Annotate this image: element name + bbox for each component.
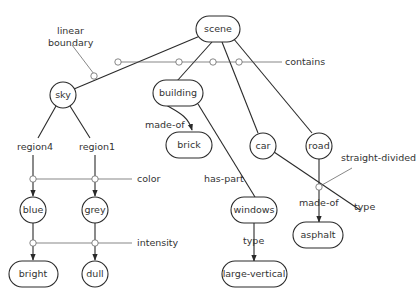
edge-scene-car — [222, 42, 258, 133]
contains-knot-car — [210, 59, 216, 65]
node-large-vertical-label: large-vertical — [223, 268, 286, 279]
region4-label: region4 — [17, 141, 53, 152]
made-of-asphalt-label: made-of — [299, 197, 339, 208]
boundary-label: boundary — [48, 37, 94, 48]
node-bright-label: bright — [19, 268, 48, 279]
node-windows: windows — [231, 197, 277, 223]
intensity-relation: intensity — [30, 237, 179, 248]
node-car: car — [250, 133, 276, 159]
straight-divided-knot — [316, 184, 322, 190]
node-asphalt: asphalt — [293, 222, 343, 248]
node-sky-label: sky — [55, 89, 71, 100]
node-dull-label: dull — [86, 268, 103, 279]
region1-label: region1 — [79, 141, 115, 152]
linear-boundary-relation: linear boundary — [48, 25, 97, 79]
node-blue-label: blue — [23, 204, 44, 215]
node-grey-label: grey — [84, 204, 106, 215]
type-windows-label: type — [243, 235, 264, 246]
node-car-label: car — [256, 140, 271, 151]
node-blue: blue — [20, 197, 46, 223]
semantic-network-diagram: contains linear boundary made-of has-par… — [0, 0, 418, 302]
node-road: road — [306, 133, 332, 159]
node-road-label: road — [308, 140, 329, 151]
node-windows-label: windows — [234, 204, 275, 215]
node-brick-label: brick — [177, 139, 201, 150]
intensity-label: intensity — [137, 237, 179, 248]
node-building-label: building — [159, 87, 197, 98]
node-scene: scene — [196, 16, 240, 42]
node-asphalt-label: asphalt — [300, 229, 335, 240]
intensity-knot-blue — [30, 240, 36, 246]
node-scene-label: scene — [204, 23, 232, 34]
edge-scene-road — [233, 38, 312, 133]
node-brick: brick — [166, 132, 212, 158]
edge-sky-region1 — [70, 106, 90, 138]
contains-knot-sky — [115, 59, 121, 65]
contains-relation: contains — [115, 56, 325, 67]
straight-divided-label: straight-divided — [341, 152, 416, 163]
has-part-label: has-part — [204, 173, 244, 184]
intensity-knot-grey — [92, 240, 98, 246]
node-grey: grey — [82, 197, 108, 223]
node-bright: bright — [9, 261, 58, 287]
color-knot-blue — [30, 176, 36, 182]
linear-boundary-pointer — [72, 45, 94, 74]
edge-sky-region4 — [38, 106, 56, 138]
type-car-label: type — [354, 201, 375, 212]
straight-divided-pointer — [322, 168, 352, 185]
contains-knot-building — [176, 59, 182, 65]
node-dull: dull — [82, 261, 108, 287]
color-label: color — [137, 173, 160, 184]
color-knot-grey — [92, 176, 98, 182]
node-large-vertical: large-vertical — [222, 261, 287, 287]
contains-label: contains — [285, 56, 325, 67]
node-building: building — [153, 80, 203, 106]
made-of-brick-label: made-of — [145, 119, 185, 130]
contains-knot-road — [236, 59, 242, 65]
node-sky: sky — [50, 82, 76, 108]
linear-label: linear — [57, 25, 84, 36]
linear-boundary-knot — [91, 73, 97, 79]
